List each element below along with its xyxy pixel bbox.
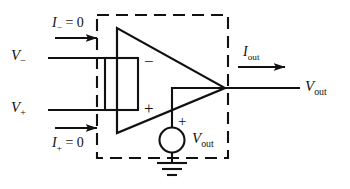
label-voltage-plus-sub: + xyxy=(20,107,26,118)
label-current-minus: I− = 0 xyxy=(52,16,84,33)
label-voltage-out-terminal-sub: out xyxy=(314,86,327,97)
dependent-voltage-source xyxy=(160,128,185,153)
ground-symbol xyxy=(157,163,187,175)
inverting-input-sign: − xyxy=(144,53,154,70)
label-voltage-out-terminal-text: V xyxy=(305,78,314,94)
label-current-plus-eq: = 0 xyxy=(62,135,84,150)
label-current-minus-eq: = 0 xyxy=(62,15,84,30)
label-voltage-plus: V+ xyxy=(11,100,26,118)
label-current-out: Iout xyxy=(243,45,259,62)
label-voltage-out-source: Vout xyxy=(192,131,214,149)
label-current-out-sub: out xyxy=(248,52,260,62)
label-voltage-minus: V− xyxy=(11,48,26,66)
label-voltage-out-source-sub: out xyxy=(201,138,214,149)
label-voltage-plus-text: V xyxy=(11,99,20,115)
label-voltage-minus-text: V xyxy=(11,47,20,63)
label-voltage-out-source-text: V xyxy=(192,130,201,146)
input-resistance-block xyxy=(105,58,138,110)
circuit-diagram-canvas: I− = 0 I+ = 0 V− V+ Iout Vout Vout − + + xyxy=(0,0,350,189)
source-positive-sign: + xyxy=(178,114,186,129)
noninverting-input-sign: + xyxy=(144,100,154,117)
label-current-plus: I+ = 0 xyxy=(52,136,84,153)
label-voltage-out-terminal: Vout xyxy=(305,79,327,97)
label-voltage-minus-sub: − xyxy=(20,55,26,66)
